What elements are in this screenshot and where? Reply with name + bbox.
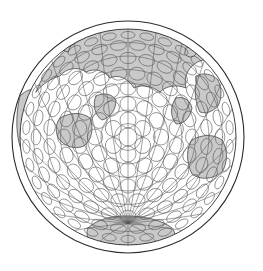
globe-diagram: [0, 0, 263, 271]
figure-root: [0, 0, 263, 271]
